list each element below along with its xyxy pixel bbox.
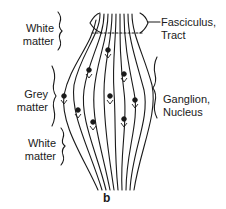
brace-white-matter-top (58, 12, 62, 50)
label-line: Grey (8, 88, 48, 101)
label-line: Nucleus (163, 106, 210, 119)
label-line: Ganglion, (163, 93, 210, 106)
label-line: matter (16, 150, 56, 163)
label-line: Tract (161, 29, 216, 42)
label-line: White (14, 22, 54, 35)
cell-body (107, 94, 113, 104)
brace-white-matter-bottom (61, 128, 65, 165)
label-line: Fasciculus, (161, 16, 216, 29)
label-line: matter (14, 35, 54, 48)
label-line: White (16, 137, 56, 150)
cell-body (90, 120, 96, 130)
label-white-matter-top: White matter (14, 22, 54, 48)
label-grey-matter: Grey matter (8, 88, 48, 114)
figure-label: b (103, 191, 110, 205)
label-line: matter (8, 101, 48, 114)
label-ganglion-nucleus: Ganglion, Nucleus (163, 93, 210, 119)
label-white-matter-bottom: White matter (16, 137, 56, 163)
brace-grey-matter (52, 66, 56, 126)
label-fasciculus-tract: Fasciculus, Tract (161, 16, 216, 42)
brace-ganglion-nucleus (153, 57, 157, 118)
